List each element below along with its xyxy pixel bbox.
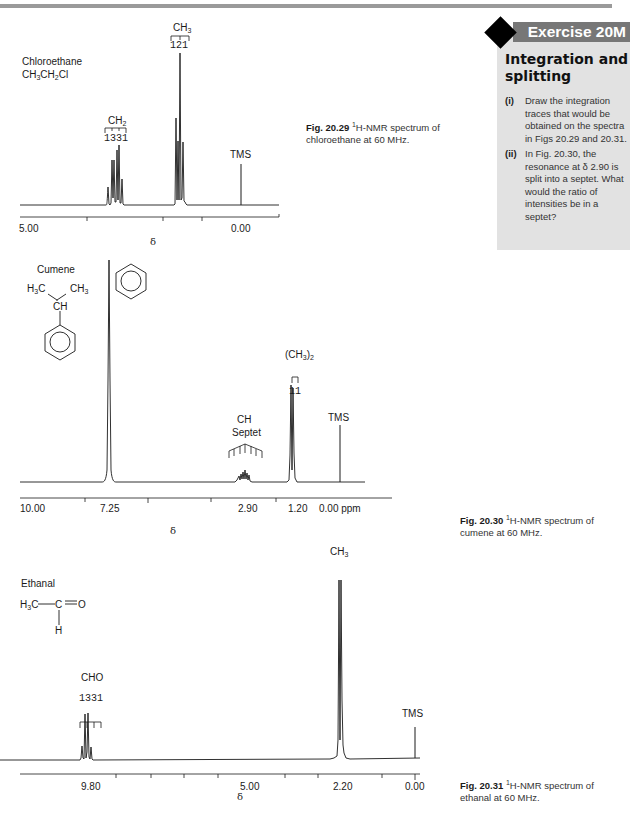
ch3-label: (CH3)2 [285, 349, 314, 361]
tick-label: 9.80 [81, 781, 101, 792]
axis-label: δ [237, 791, 243, 802]
structure-h: H [55, 625, 62, 636]
item-number: (ii) [505, 148, 525, 223]
axis-label: δ [170, 525, 176, 536]
axis-label: δ [150, 236, 156, 247]
tick-label: 10.00 [20, 503, 45, 514]
cho-label: CHO [81, 672, 103, 683]
tms-label: TMS [230, 149, 251, 160]
fig-label: Fig. 20.30 [460, 515, 503, 526]
item-text: Draw the integration traces that would b… [525, 95, 627, 145]
benzene-ring-label [116, 264, 146, 299]
exercise-list: (i) Draw the integration traces that wou… [505, 95, 627, 226]
septet-label: Septet [232, 427, 261, 438]
figure-caption-20-29: Fig. 20.29 1H-NMR spectrum of chloroetha… [306, 119, 486, 146]
ch2-label: CH2 [108, 115, 126, 127]
ch3-label: CH3 [330, 546, 348, 558]
exercise-header: Exercise 20M [513, 22, 630, 42]
item-text: In Fig. 20.30, the resonance at δ 2.90 i… [525, 148, 627, 223]
tick-label: 2.90 [238, 503, 258, 514]
structure-h3c: H3C [27, 283, 45, 295]
ch3-label: CH3 [173, 22, 191, 34]
figure-caption-20-31: Fig. 20.31 1H-NMR spectrum of ethanal at… [460, 777, 625, 804]
tick-label: 7.25 [100, 503, 120, 514]
tick-label: 0.00 [231, 223, 251, 234]
exercise-title: Integration and splitting [505, 51, 630, 85]
compound-name: Cumene [37, 264, 75, 275]
ch3-ratio: 121 [170, 40, 188, 51]
compound-formula: CH3CH2Cl [22, 69, 68, 81]
tms-label: TMS [328, 412, 349, 423]
figure-caption-20-30: Fig. 20.30 1H-NMR spectrum of cumene at … [460, 512, 625, 539]
compound-name: Ethanal [21, 578, 55, 589]
structure-ch3: CH3 [70, 283, 88, 295]
spectrum-ethanal [0, 580, 420, 780]
exercise-item: (ii) In Fig. 20.30, the resonance at δ 2… [505, 148, 627, 223]
structure-c: C [55, 599, 62, 610]
structure-ch: CH [53, 301, 67, 312]
ch3-ratio: 11 [289, 386, 301, 397]
tick-label: 0.00 [405, 781, 425, 792]
item-number: (i) [505, 95, 525, 145]
ch-label: CH [237, 414, 251, 425]
tick-label: 2.20 [333, 781, 353, 792]
compound-name: Chloroethane [22, 56, 82, 67]
spectrum-cumene [20, 260, 392, 503]
tms-label: TMS [402, 708, 423, 719]
cho-ratio: 1331 [79, 693, 103, 704]
fig-label: Fig. 20.29 [306, 122, 349, 133]
structure-o: O [78, 599, 86, 610]
exercise-item: (i) Draw the integration traces that wou… [505, 95, 627, 145]
tick-label: 0.00 ppm [319, 503, 361, 514]
structure-h3c: H3C [20, 599, 38, 611]
tick-label: 5.00 [19, 223, 39, 234]
fig-label: Fig. 20.31 [460, 780, 503, 791]
tick-label: 1.20 [288, 503, 308, 514]
ch2-ratio: 1331 [104, 133, 128, 144]
